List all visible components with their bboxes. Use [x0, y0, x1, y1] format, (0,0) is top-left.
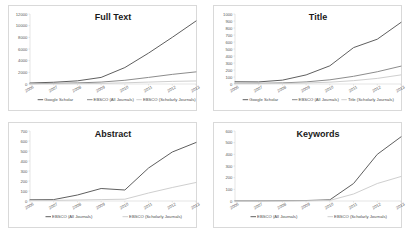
y-tick-label: 6000: [18, 47, 28, 52]
y-tick-label: 0: [25, 199, 28, 204]
legend-label: EBSCO (All Journals): [52, 214, 93, 219]
x-tick-label: 2011: [143, 201, 154, 210]
y-tick-label: 400: [225, 152, 233, 157]
legend-label: EBSCO (All Journals): [94, 97, 135, 102]
y-tick-label: 400: [20, 159, 28, 164]
series-line: [235, 177, 401, 201]
x-tick-label: 2007: [253, 84, 264, 93]
legend-label: EBSCO (All Journals): [257, 214, 298, 219]
series-line: [235, 22, 401, 82]
series-line: [30, 143, 196, 200]
x-tick-label: 2009: [95, 84, 106, 93]
y-tick-label: 200: [20, 179, 28, 184]
y-tick-label: 700: [225, 33, 233, 38]
series-line: [235, 66, 401, 83]
legend-label: EBSCO (Scholarly Journals): [143, 97, 196, 102]
x-tick-label: 2008: [71, 201, 82, 210]
plot-area-title: 0100200300400500600700800900100020062007…: [205, 0, 410, 117]
x-tick-label: 2011: [348, 84, 359, 93]
x-tick-label: 2011: [348, 201, 359, 210]
y-tick-label: 500: [225, 47, 233, 52]
x-tick-label: 2013: [190, 201, 201, 210]
y-tick-label: 900: [225, 19, 233, 24]
y-tick-label: 1000: [223, 12, 233, 17]
y-tick-label: 0: [230, 82, 233, 87]
plot-area-full-text: 0200040006000800010000120002006200720082…: [0, 0, 205, 117]
y-tick-label: 400: [225, 54, 233, 59]
x-tick-label: 2009: [95, 201, 106, 210]
y-tick-label: 100: [225, 187, 233, 192]
chart-panel-full-text: 0200040006000800010000120002006200720082…: [0, 0, 205, 117]
x-tick-label: 2010: [119, 84, 130, 93]
y-tick-label: 600: [225, 129, 233, 134]
x-tick-label: 2012: [166, 84, 177, 93]
y-tick-label: 500: [20, 149, 28, 154]
x-tick-label: 2010: [119, 201, 130, 210]
chart-title: Title: [309, 12, 327, 22]
chart-panel-keywords: 0100200300400500600200620072008200920102…: [205, 117, 410, 234]
x-tick-label: 2013: [190, 84, 201, 93]
y-tick-label: 4000: [18, 58, 28, 63]
y-tick-label: 600: [225, 40, 233, 45]
x-tick-label: 2008: [276, 201, 287, 210]
x-tick-label: 2007: [48, 201, 59, 210]
x-tick-label: 2013: [395, 201, 406, 210]
y-tick-label: 0: [230, 199, 233, 204]
y-tick-label: 12000: [16, 12, 28, 17]
legend-label: Title (Scholarly Journals): [348, 97, 395, 102]
y-tick-label: 200: [225, 175, 233, 180]
y-tick-label: 200: [225, 68, 233, 73]
chart-title: Keywords: [296, 129, 339, 139]
y-tick-label: 100: [20, 189, 28, 194]
chart-panel-title: 0100200300400500600700800900100020062007…: [205, 0, 410, 117]
chart-svg-full-text: 0200040006000800010000120002006200720082…: [0, 0, 205, 117]
legend-label: EBSCO (All Journals): [299, 97, 340, 102]
x-tick-label: 2009: [300, 201, 311, 210]
x-tick-label: 2012: [371, 201, 382, 210]
x-tick-label: 2007: [253, 201, 264, 210]
chart-title: Full Text: [95, 12, 131, 22]
x-tick-label: 2010: [324, 84, 335, 93]
y-tick-label: 500: [225, 140, 233, 145]
x-tick-label: 2008: [71, 84, 82, 93]
series-line: [30, 21, 196, 83]
chart-panel-abstract: 0100200300400500600700200620072008200920…: [0, 117, 205, 234]
y-tick-label: 700: [20, 129, 28, 134]
y-tick-label: 2000: [18, 70, 28, 75]
x-tick-label: 2007: [48, 84, 59, 93]
y-tick-label: 800: [225, 26, 233, 31]
y-tick-label: 300: [225, 61, 233, 66]
chart-svg-abstract: 0100200300400500600700200620072008200920…: [0, 117, 205, 234]
legend-label: EBSCO (Scholarly Journals): [334, 214, 387, 219]
y-tick-label: 100: [225, 75, 233, 80]
x-tick-label: 2011: [143, 84, 154, 93]
plot-area-abstract: 0100200300400500600700200620072008200920…: [0, 117, 205, 234]
series-line: [235, 137, 401, 201]
y-tick-label: 10000: [16, 23, 28, 28]
y-tick-label: 8000: [18, 35, 28, 40]
series-line: [235, 75, 401, 84]
legend-label: Google Scholar: [44, 97, 73, 102]
y-tick-label: 300: [225, 164, 233, 169]
chart-title: Abstract: [95, 129, 132, 139]
x-tick-label: 2012: [166, 201, 177, 210]
x-tick-label: 2009: [300, 84, 311, 93]
x-tick-label: 2010: [324, 201, 335, 210]
plot-area-keywords: 0100200300400500600200620072008200920102…: [205, 117, 410, 234]
y-tick-label: 0: [25, 82, 28, 87]
series-line: [30, 183, 196, 201]
y-tick-label: 600: [20, 139, 28, 144]
chart-grid: 0200040006000800010000120002006200720082…: [0, 0, 410, 234]
x-tick-label: 2008: [276, 84, 287, 93]
y-tick-label: 300: [20, 169, 28, 174]
x-tick-label: 2013: [395, 84, 406, 93]
chart-svg-title: 0100200300400500600700800900100020062007…: [205, 0, 410, 117]
legend-label: EBSCO (Scholarly Journals): [129, 214, 182, 219]
chart-svg-keywords: 0100200300400500600200620072008200920102…: [205, 117, 410, 234]
legend-label: Google Scholar: [249, 97, 278, 102]
x-tick-label: 2012: [371, 84, 382, 93]
